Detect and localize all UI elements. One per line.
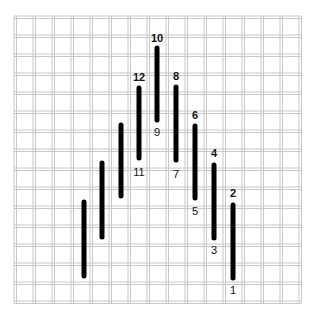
- label-3: 3: [211, 245, 217, 256]
- label-8: 8: [173, 71, 179, 82]
- label-4: 4: [211, 148, 217, 159]
- label-11: 11: [133, 167, 144, 178]
- label-5: 5: [192, 206, 198, 217]
- label-9: 9: [154, 127, 160, 138]
- label-10: 10: [151, 33, 163, 44]
- label-7: 7: [173, 169, 179, 180]
- label-12: 12: [133, 72, 145, 83]
- stitch-diagram: [0, 0, 309, 317]
- label-2: 2: [230, 188, 236, 199]
- label-1: 1: [230, 285, 236, 296]
- label-6: 6: [192, 110, 198, 121]
